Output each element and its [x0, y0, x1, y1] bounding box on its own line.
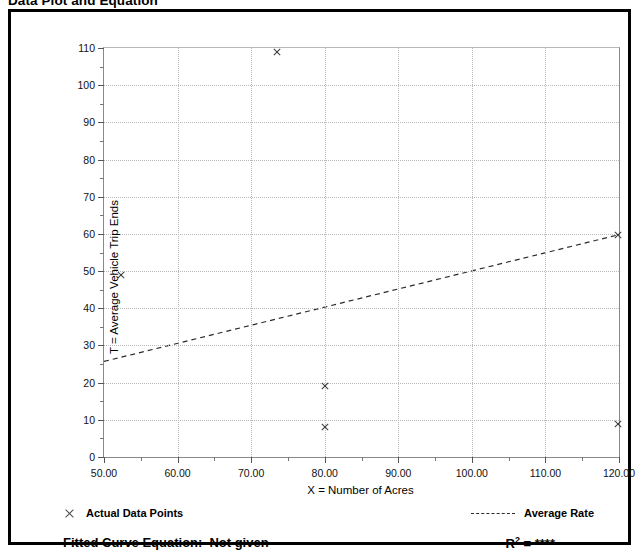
gridline-horizontal [104, 122, 619, 123]
gridline-vertical [251, 48, 252, 457]
page-title: Data Plot and Equation [8, 0, 158, 8]
x-axis-tick-major [398, 457, 399, 463]
r-squared-exponent: 2 [515, 535, 520, 545]
r-squared-value: R2 = **** [506, 535, 556, 551]
x-axis-tick-label: 80.00 [312, 467, 338, 479]
gridline-vertical [398, 48, 399, 457]
x-axis-tick-minor [362, 457, 363, 461]
y-axis-tick-label: 30 [83, 339, 95, 351]
x-axis-tick-label: 60.00 [164, 467, 190, 479]
equation-row: Fitted Curve Equation:Not given R2 = ***… [11, 535, 628, 553]
x-marker-icon [63, 508, 74, 519]
y-axis-tick-minor [100, 215, 104, 216]
y-axis-tick-minor [100, 104, 104, 105]
y-axis-tick-major [98, 160, 104, 161]
y-axis-tick-label: 60 [83, 228, 95, 240]
gridline-horizontal [104, 160, 619, 161]
gridline-horizontal [104, 85, 619, 86]
fitted-curve-equation-label: Fitted Curve Equation: [63, 535, 202, 550]
x-axis-tick-minor [509, 457, 510, 461]
gridline-vertical [545, 48, 546, 457]
y-axis-tick-minor [100, 141, 104, 142]
x-axis-tick-label: 90.00 [385, 467, 411, 479]
gridline-horizontal [104, 271, 619, 272]
y-axis-tick-major [98, 122, 104, 123]
y-axis-tick-label: 0 [89, 451, 95, 463]
fitted-curve-equation: Fitted Curve Equation:Not given [63, 535, 269, 550]
gridline-horizontal [104, 234, 619, 235]
x-axis-tick-minor [435, 457, 436, 461]
y-axis-title: T = Average Vehicle Trip Ends [108, 200, 120, 354]
legend-label-actual-data-points: Actual Data Points [86, 507, 183, 519]
gridline-horizontal [104, 420, 619, 421]
y-axis-tick-label: 90 [83, 116, 95, 128]
y-axis-tick-label: 110 [78, 42, 95, 54]
y-axis-tick-minor [100, 290, 104, 291]
x-axis-tick-label: 100.00 [456, 467, 488, 479]
x-axis-tick-major [178, 457, 179, 463]
chart-plot-area: 010203040506070809010011050.0060.0070.00… [103, 47, 620, 458]
legend-label-average-rate: Average Rate [524, 507, 594, 519]
y-axis-tick-major [98, 308, 104, 309]
x-axis-title: X = Number of Acres [103, 484, 618, 496]
gridline-vertical [472, 48, 473, 457]
x-axis-tick-major [104, 457, 105, 463]
legend-item-actual-data-points: Actual Data Points [63, 507, 183, 519]
y-axis-tick-major [98, 234, 104, 235]
y-axis-tick-major [98, 85, 104, 86]
x-axis-tick-major [472, 457, 473, 463]
y-axis-tick-minor [100, 364, 104, 365]
fitted-curve-equation-value: Not given [209, 535, 268, 550]
x-axis-tick-minor [582, 457, 583, 461]
r-squared-result: **** [535, 536, 555, 551]
y-axis-tick-minor [100, 327, 104, 328]
x-axis-tick-label: 110.00 [530, 467, 561, 479]
y-axis-tick-minor [100, 67, 104, 68]
x-axis-tick-major [619, 457, 620, 463]
gridline-horizontal [104, 383, 619, 384]
gridline-vertical [325, 48, 326, 457]
x-axis-tick-major [325, 457, 326, 463]
r-squared-label: R [506, 536, 515, 551]
x-axis-tick-label: 70.00 [238, 467, 264, 479]
x-axis-tick-minor [288, 457, 289, 461]
y-axis-tick-minor [100, 178, 104, 179]
average-rate-trend-line [104, 48, 619, 457]
y-axis-tick-label: 20 [83, 377, 95, 389]
x-axis-tick-major [251, 457, 252, 463]
y-axis-tick-label: 40 [83, 302, 95, 314]
y-axis-tick-major [98, 271, 104, 272]
y-axis-tick-minor [100, 401, 104, 402]
y-axis-tick-label: 100 [77, 79, 95, 91]
r-squared-equals: = [524, 536, 532, 551]
dashed-line-icon [471, 513, 515, 514]
gridline-horizontal [104, 345, 619, 346]
y-axis-tick-major [98, 197, 104, 198]
y-axis-tick-major [98, 383, 104, 384]
figure-frame: 010203040506070809010011050.0060.0070.00… [8, 9, 631, 545]
chart-legend: Actual Data Points Average Rate [11, 507, 628, 525]
y-axis-tick-label: 70 [83, 191, 95, 203]
y-axis-tick-minor [100, 438, 104, 439]
x-axis-tick-minor [214, 457, 215, 461]
legend-item-average-rate: Average Rate [471, 507, 594, 519]
x-axis-tick-major [545, 457, 546, 463]
y-axis-tick-label: 80 [83, 154, 95, 166]
y-axis-tick-label: 50 [83, 265, 95, 277]
gridline-horizontal [104, 197, 619, 198]
x-axis-tick-label: 120.00 [603, 467, 635, 479]
y-axis-tick-major [98, 48, 104, 49]
y-axis-tick-major [98, 420, 104, 421]
y-axis-tick-major [98, 345, 104, 346]
y-axis-tick-minor [100, 253, 104, 254]
gridline-vertical [178, 48, 179, 457]
x-axis-tick-minor [141, 457, 142, 461]
x-axis-tick-label: 50.00 [91, 467, 117, 479]
y-axis-tick-label: 10 [83, 414, 95, 426]
gridline-horizontal [104, 308, 619, 309]
